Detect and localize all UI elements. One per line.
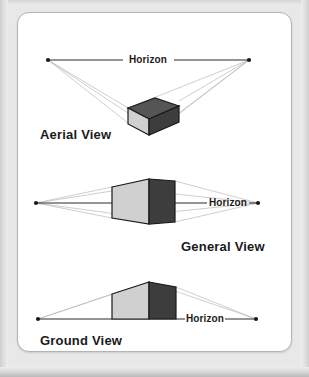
general-horizon-label: Horizon [209,197,247,208]
aerial-horizon-label: Horizon [129,54,167,65]
diagram-card: Horizon Aerial View [17,12,292,352]
general-vanishing-point-left [34,201,38,205]
general-view-label: General View [181,239,266,254]
page-edge-bottom [0,367,309,377]
general-view-group: Horizon General View [34,179,266,254]
page-edge-right [301,0,309,377]
page-edge-top [0,0,309,6]
aerial-box [128,98,179,135]
page-root: Horizon Aerial View [0,0,309,377]
general-box [112,179,175,224]
ground-box [112,282,176,319]
ground-view-group: Horizon Ground View [36,282,258,348]
general-box-left-face [112,179,149,224]
aerial-vanishing-point-left [46,58,50,62]
aerial-view-label: Aerial View [40,127,112,142]
ground-box-left-face [112,282,149,319]
ground-view-label: Ground View [40,333,123,348]
ground-vanishing-point-right [254,317,258,321]
general-box-right-face [149,179,175,224]
aerial-view-group: Horizon Aerial View [40,54,251,142]
ground-box-right-face [149,282,176,319]
general-vanishing-point-right [256,201,260,205]
perspective-diagram: Horizon Aerial View [18,13,291,351]
ground-vanishing-point-left [36,317,40,321]
ground-horizon-label: Horizon [186,313,224,324]
page-edge-left [0,0,8,377]
aerial-vanishing-point-right [247,58,251,62]
